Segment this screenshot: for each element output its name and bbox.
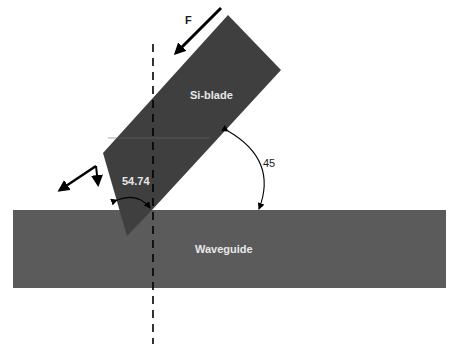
si-blade (103, 15, 281, 236)
cleaving-diagram: F Si-blade 54.74 45 Waveguide (0, 0, 454, 354)
ejection-arrow-icon (60, 166, 96, 190)
force-label: F (185, 14, 192, 26)
blade-label: Si-blade (190, 89, 233, 101)
waveguide-label: Waveguide (195, 243, 253, 255)
incline-angle-arc (228, 131, 264, 209)
ejection-down-arrow-icon (96, 166, 98, 184)
tip-angle-label: 54.74 (122, 175, 150, 187)
incline-angle-label: 45 (263, 157, 275, 169)
